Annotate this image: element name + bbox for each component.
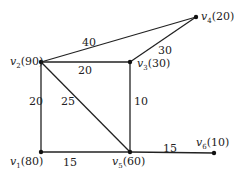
edge-v2-v4	[41, 17, 196, 62]
node-v6	[212, 151, 216, 155]
node-v5	[128, 150, 132, 154]
edge-weight-v2-v3: 20	[78, 65, 92, 76]
node-label-v1: v1(80)	[10, 156, 43, 170]
node-label-v4: v4(20)	[201, 11, 234, 25]
edge-weight-v3-v5: 10	[134, 96, 148, 107]
node-v4	[194, 15, 198, 19]
edge-weight-v5-v6: 15	[163, 143, 177, 154]
node-label-v6: v6(10)	[196, 137, 229, 151]
edge-weight-v2-v5: 25	[61, 96, 75, 107]
node-label-v2: v2(90)	[10, 56, 43, 70]
node-label-v5: v5(60)	[112, 156, 145, 170]
edge-weight-v1-v5: 15	[63, 157, 77, 168]
edge-weight-v2-v4: 40	[82, 37, 96, 48]
node-v3	[128, 60, 132, 64]
edge-weight-v3-v4: 30	[158, 45, 172, 56]
node-label-v3: v3(30)	[137, 58, 170, 72]
edge-weight-v2-v1: 20	[29, 96, 43, 107]
graph-canvas	[0, 0, 234, 178]
node-v1	[39, 150, 43, 154]
